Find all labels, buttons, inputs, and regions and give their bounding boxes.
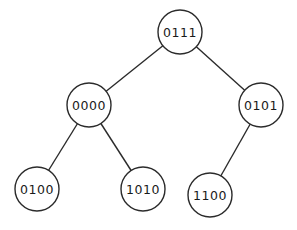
tree-node-root: 0111 [158, 10, 202, 54]
node-label: 1100 [193, 188, 227, 203]
binary-tree-diagram: 0111 0000 0101 0100 1010 1100 [0, 0, 297, 230]
tree-node: 0000 [67, 83, 111, 127]
tree-nodes: 0111 0000 0101 0100 1010 1100 [15, 10, 283, 217]
tree-node: 0101 [239, 83, 283, 127]
node-label: 0111 [163, 25, 197, 40]
tree-node-leaf: 1100 [188, 173, 232, 217]
tree-node-leaf: 0100 [15, 167, 59, 211]
node-label: 1010 [126, 182, 160, 197]
node-label: 0101 [244, 98, 278, 113]
node-label: 0000 [72, 98, 106, 113]
node-label: 0100 [20, 182, 54, 197]
tree-node-leaf: 1010 [121, 167, 165, 211]
